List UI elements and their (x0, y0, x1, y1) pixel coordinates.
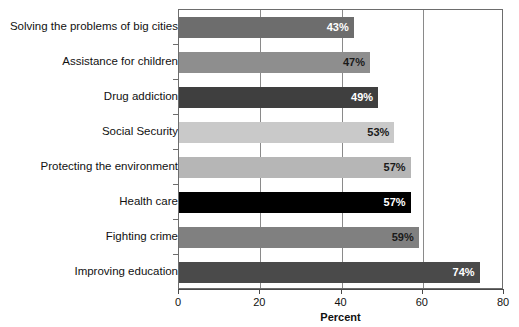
category-label: Protecting the environment (6, 149, 178, 184)
plot-area: 43%47%49%53%57%57%59%74% (178, 9, 503, 289)
y-axis-tick (173, 219, 179, 220)
bar-value-label: 57% (179, 192, 411, 213)
bar-row: 74% (179, 255, 502, 290)
category-label: Fighting crime (6, 219, 178, 254)
x-axis-title: Percent (178, 311, 503, 323)
category-label: Assistance for children (6, 44, 178, 79)
bar-value-label: 47% (179, 52, 370, 73)
category-label: Health care (6, 184, 178, 219)
bar-value-label: 74% (179, 262, 480, 283)
bar-row: 53% (179, 115, 502, 150)
x-axis-tick (422, 289, 423, 294)
bar-value-label: 49% (179, 87, 378, 108)
x-axis-tick (503, 289, 504, 294)
x-axis-tick-label: 0 (175, 296, 181, 308)
bar-row: 57% (179, 185, 502, 220)
y-axis-tick (173, 79, 179, 80)
category-label: Social Security (6, 114, 178, 149)
y-axis-tick (173, 149, 179, 150)
x-axis-tick-label: 80 (497, 296, 509, 308)
x-axis-tick (341, 289, 342, 294)
bar-row: 43% (179, 10, 502, 45)
bar-row: 57% (179, 150, 502, 185)
bar-value-label: 43% (179, 17, 354, 38)
bar-row: 59% (179, 220, 502, 255)
y-axis-tick (173, 44, 179, 45)
bar-value-label: 57% (179, 157, 411, 178)
x-axis-tick (178, 289, 179, 294)
bar-value-label: 59% (179, 227, 419, 248)
bar-value-label: 53% (179, 122, 394, 143)
x-axis-tick-label: 60 (416, 296, 428, 308)
category-label: Improving education (6, 254, 178, 289)
x-axis-tick-label: 20 (253, 296, 265, 308)
category-axis-labels: Solving the problems of big citiesAssist… (0, 9, 178, 289)
bar-row: 49% (179, 80, 502, 115)
y-axis-tick (173, 114, 179, 115)
x-axis-tick (259, 289, 260, 294)
y-axis-tick (173, 254, 179, 255)
bar-chart: Solving the problems of big citiesAssist… (0, 0, 519, 327)
bar-row: 47% (179, 45, 502, 80)
x-axis-tick-label: 40 (334, 296, 346, 308)
category-label: Drug addiction (6, 79, 178, 114)
category-label: Solving the problems of big cities (6, 9, 178, 44)
y-axis-tick (173, 184, 179, 185)
